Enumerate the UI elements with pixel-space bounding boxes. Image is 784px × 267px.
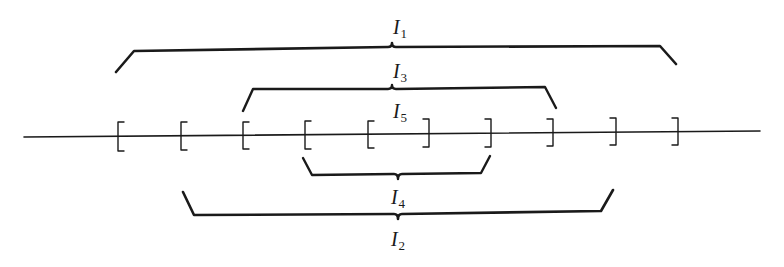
brace-I4 [303,156,490,179]
nested-intervals-diagram: I1 I3 I5 I4 I2 [0,0,784,267]
label-I2: I2 [391,229,405,252]
label-I4: I4 [391,187,405,210]
number-line [24,131,760,137]
label-I1: I1 [393,17,407,40]
label-I3: I3 [393,61,407,84]
label-I5: I5 [393,101,407,124]
